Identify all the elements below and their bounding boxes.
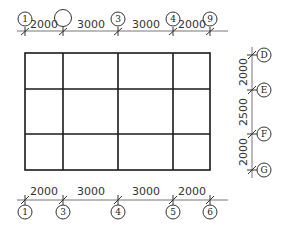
bottom-axis-label-3: 3 xyxy=(60,207,66,217)
right-dim-3: 2000 xyxy=(237,138,250,166)
bottom-axis-label-1: 1 xyxy=(22,207,28,217)
right-axis-label-D: D xyxy=(260,50,267,60)
bottom-dim-2: 3000 xyxy=(77,185,105,198)
right-dim-2: 2500 xyxy=(237,98,250,126)
right-axis-label-E: E xyxy=(261,85,268,95)
bottom-dim-4: 2000 xyxy=(178,185,206,198)
top-axis-label-4: 4 xyxy=(170,14,176,24)
top-dim-3: 3000 xyxy=(132,18,160,31)
top-axis-label-1: 1 xyxy=(22,14,28,24)
right-dim-1: 2000 xyxy=(237,58,250,86)
bottom-axis-label-5: 5 xyxy=(170,207,176,217)
top-dim-2: 3000 xyxy=(77,18,105,31)
bottom-axis-label-6: 6 xyxy=(207,207,213,217)
top-dimension-axis: 1 3 4 9 2000 3000 3000 2000 xyxy=(17,10,228,37)
bottom-axis-label-4: 4 xyxy=(115,207,121,217)
right-dimension-axis: D E F G 2000 2500 2000 xyxy=(237,47,271,178)
bottom-dimension-axis: 1 3 4 5 6 2000 3000 3000 2000 xyxy=(17,185,228,219)
grid-plan-drawing: 1 3 4 9 2000 3000 3000 2000 D xyxy=(0,0,292,233)
bottom-dim-3: 3000 xyxy=(132,185,160,198)
right-axis-label-G: G xyxy=(260,165,267,175)
bottom-dim-1: 2000 xyxy=(30,185,58,198)
top-dim-1: 2000 xyxy=(30,18,58,31)
structural-grid xyxy=(25,53,210,170)
top-axis-label-3: 3 xyxy=(115,14,121,24)
top-axis-label-9: 9 xyxy=(207,14,213,24)
right-axis-label-F: F xyxy=(261,129,267,139)
top-dim-4: 2000 xyxy=(178,18,206,31)
